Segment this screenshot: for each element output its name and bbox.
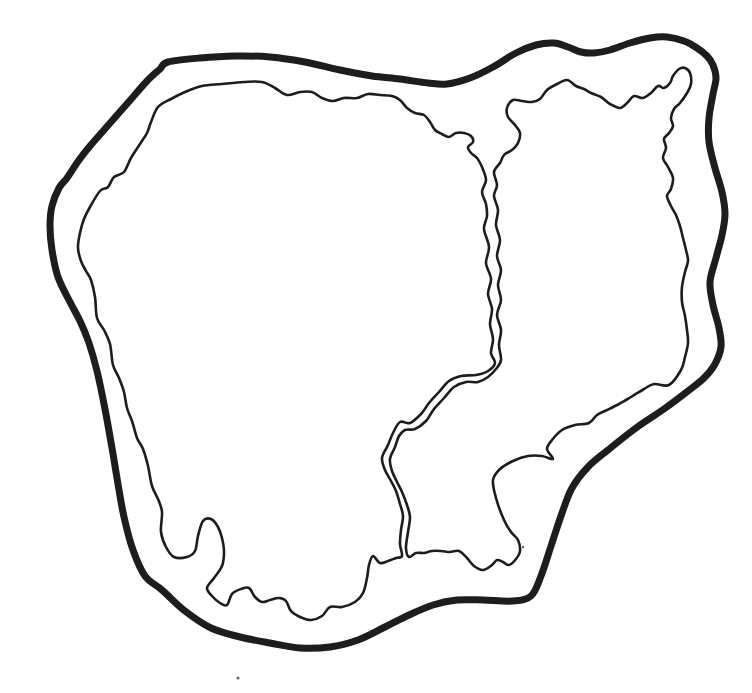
left-region-inner-boundary [78, 81, 495, 620]
ink-speck [522, 546, 525, 549]
drawing-canvas [0, 0, 752, 693]
right-region-inner-boundary [390, 68, 691, 570]
ink-speck [236, 676, 239, 679]
line-drawing [0, 0, 752, 693]
outer-boundary [50, 37, 725, 649]
